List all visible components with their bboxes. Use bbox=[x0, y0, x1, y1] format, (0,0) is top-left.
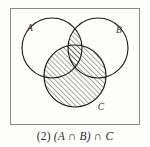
venn-canvas: A B C bbox=[0, 0, 150, 128]
venn-frame: A B C bbox=[0, 0, 150, 128]
set-label-c: C bbox=[98, 102, 105, 112]
caption-expression: (A ∩ B) ∩ C bbox=[54, 130, 113, 142]
caption-number: (2) bbox=[37, 130, 51, 142]
set-label-b: B bbox=[116, 25, 122, 35]
set-label-a: A bbox=[26, 23, 33, 33]
figure-caption: (2) (A ∩ B) ∩ C bbox=[0, 128, 150, 147]
venn-diagram-figure: A B C (2) (A ∩ B) ∩ C bbox=[0, 0, 150, 147]
